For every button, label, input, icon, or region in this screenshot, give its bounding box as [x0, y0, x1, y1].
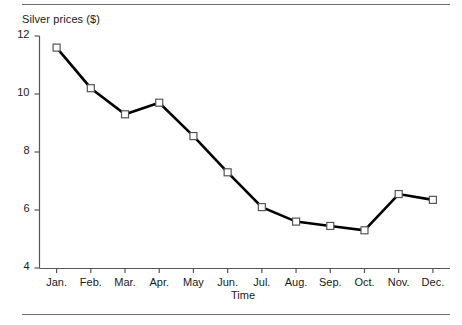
- data-point-marker: [327, 222, 334, 229]
- x-tick-label: Dec.: [413, 276, 453, 288]
- y-tick-label: 10: [6, 86, 30, 98]
- figure-container: Silver prices ($) 4681012 Jan.Feb.Mar.Ap…: [0, 0, 462, 325]
- data-point-marker: [429, 196, 436, 203]
- bottom-horizontal-rule: [22, 314, 450, 315]
- data-point-marker: [190, 133, 197, 140]
- data-series-line: [57, 48, 433, 231]
- data-point-marker: [361, 227, 368, 234]
- data-point-marker: [87, 85, 94, 92]
- data-point-marker: [395, 191, 402, 198]
- chart-axes: [40, 36, 451, 269]
- y-tick-label: 4: [6, 260, 30, 272]
- y-tick-label: 12: [6, 28, 30, 40]
- data-point-marker: [53, 44, 60, 51]
- data-point-markers: [53, 44, 436, 234]
- data-point-marker: [156, 99, 163, 106]
- data-point-marker: [122, 111, 129, 118]
- data-point-marker: [293, 218, 300, 225]
- data-point-marker: [258, 204, 265, 211]
- x-axis-title: Time: [203, 289, 283, 301]
- y-tick-label: 8: [6, 144, 30, 156]
- y-tick-label: 6: [6, 202, 30, 214]
- y-axis-ticks: [35, 36, 40, 268]
- data-point-marker: [224, 169, 231, 176]
